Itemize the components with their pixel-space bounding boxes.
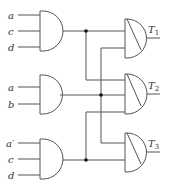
input-label-c: c [8,154,14,165]
output-label-t3: T3 [148,138,159,151]
input-label-a-prime: a′ [6,138,15,149]
output-gate-t2: T2 [125,74,160,114]
output-label-t1: T1 [148,24,159,37]
input-label-c: c [8,26,14,37]
output-gate-t3: T3 [125,133,160,172]
input-label-d: d [8,170,14,181]
logic-circuit-diagram: a c d a b a′ c d [0,0,170,190]
junction-dot [84,158,88,162]
input-label-b: b [8,99,14,110]
junction-dot [99,93,103,97]
junction-dot [84,29,88,33]
input-label-a: a [8,10,14,21]
output-label-t2: T2 [148,80,159,93]
input-label-d: d [8,42,14,53]
and-gate-2: a b [8,75,62,114]
and-gate-1: a c d [8,10,63,53]
input-label-a: a [8,82,14,93]
output-gate-t1: T1 [125,19,160,58]
interconnect-wires [60,29,125,162]
and-gate-3: a′ c d [6,138,63,181]
